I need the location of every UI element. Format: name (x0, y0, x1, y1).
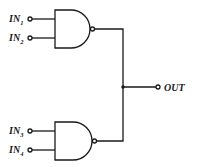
input-terminal-1 (28, 17, 32, 21)
inverter-bubble-top (91, 27, 95, 31)
output-terminal (156, 85, 160, 89)
inverter-bubble-bottom (93, 139, 97, 143)
input-terminal-4 (28, 148, 32, 152)
label-in3: IN3 (8, 125, 24, 138)
nand-gate-top (55, 10, 90, 48)
label-in2: IN2 (8, 32, 24, 45)
junction-dot (121, 85, 125, 89)
label-in4: IN4 (8, 144, 24, 157)
nand-gate-bottom (55, 122, 92, 160)
label-in1: IN1 (8, 13, 23, 26)
wire-top-output (95, 29, 124, 141)
logic-circuit-diagram: IN1 IN2 IN3 IN4 OUT (0, 0, 197, 167)
input-terminal-2 (28, 36, 32, 40)
label-out: OUT (164, 82, 185, 93)
input-terminal-3 (28, 129, 32, 133)
